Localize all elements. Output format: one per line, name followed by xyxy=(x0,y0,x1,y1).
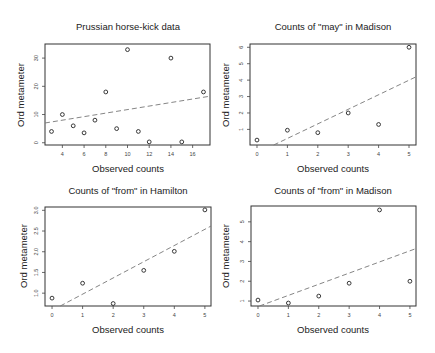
x-tick-label: 0 xyxy=(255,151,258,157)
x-tick-label: 3 xyxy=(142,312,145,318)
y-axis-label: Ord metameter xyxy=(220,63,231,127)
x-tick-label: 5 xyxy=(203,312,206,318)
data-point xyxy=(202,90,206,94)
x-tick-label: 4 xyxy=(377,151,380,157)
y-tick-label: 3 xyxy=(239,260,245,263)
data-point xyxy=(136,130,140,134)
data-point xyxy=(82,131,86,135)
data-point xyxy=(285,128,289,132)
fit-line xyxy=(260,249,416,306)
x-tick-label: 3 xyxy=(348,312,351,318)
x-tick-label: 5 xyxy=(407,151,410,157)
panel-from-hamilton: Counts of "from" in Hamilton Observed co… xyxy=(18,185,211,335)
panel-may-madison: Counts of "may" in Madison Observed coun… xyxy=(220,21,416,174)
x-tick-label: 8 xyxy=(104,151,107,157)
x-tick-label: 16 xyxy=(190,151,196,157)
y-axis-label: Ord metameter xyxy=(18,224,29,288)
data-point xyxy=(255,138,259,142)
data-point xyxy=(71,124,75,128)
data-point xyxy=(347,281,351,285)
data-point xyxy=(111,302,115,306)
x-tick-label: 12 xyxy=(146,151,152,157)
y-tick-label: 0 xyxy=(33,141,39,144)
panel-from-madison: Counts of "from" in Madison Observed cou… xyxy=(220,185,416,335)
x-axis-label: Observed counts xyxy=(92,324,164,335)
data-point xyxy=(147,140,151,144)
y-tick-label: 4 xyxy=(239,240,245,243)
y-tick-label: 2 xyxy=(239,280,245,283)
plot-frame xyxy=(45,44,210,145)
x-axis-label: Observed counts xyxy=(92,163,164,174)
data-point xyxy=(172,249,176,253)
x-tick-label: 10 xyxy=(124,151,130,157)
x-tick-label: 2 xyxy=(316,151,319,157)
data-point xyxy=(286,301,290,305)
y-tick-label: 3.0 xyxy=(33,206,39,214)
chart-title: Counts of "from" in Madison xyxy=(274,185,392,196)
y-tick-label: 1.0 xyxy=(33,289,39,297)
x-tick-label: 4 xyxy=(378,312,381,318)
y-tick-label: 5 xyxy=(239,220,245,223)
data-point xyxy=(169,56,173,60)
y-tick-label: 1.5 xyxy=(33,269,39,277)
y-axis-label: Ord metameter xyxy=(220,224,231,288)
data-point xyxy=(115,127,119,131)
data-point xyxy=(50,296,54,300)
chart-title: Counts of "may" in Madison xyxy=(275,21,392,32)
y-tick-label: 30 xyxy=(33,55,39,61)
data-point xyxy=(377,123,381,127)
y-tick-label: 3 xyxy=(238,95,244,98)
y-tick-label: 1 xyxy=(238,128,244,131)
y-axis-label: Ord metameter xyxy=(15,63,26,127)
data-point xyxy=(316,131,320,135)
x-tick-label: 5 xyxy=(408,312,411,318)
data-point xyxy=(407,45,411,49)
y-tick-label: 1 xyxy=(239,300,245,303)
y-tick-label: 10 xyxy=(33,111,39,117)
chart-title: Counts of "from" in Hamilton xyxy=(68,185,187,196)
panel-horse-kick: Prussian horse-kick data Observed counts… xyxy=(15,21,210,174)
data-point xyxy=(50,130,54,134)
data-point xyxy=(378,208,382,212)
x-tick-label: 4 xyxy=(173,312,176,318)
x-tick-label: 1 xyxy=(287,312,290,318)
plot-frame xyxy=(45,207,211,306)
data-point xyxy=(256,298,260,302)
data-point xyxy=(60,113,64,117)
fit-line xyxy=(274,77,416,145)
y-tick-label: 4 xyxy=(238,79,244,82)
data-point xyxy=(180,140,184,144)
y-tick-label: 2 xyxy=(238,111,244,114)
x-tick-label: 1 xyxy=(81,312,84,318)
x-tick-label: 4 xyxy=(61,151,64,157)
x-axis-label: Observed counts xyxy=(297,324,369,335)
data-point xyxy=(317,294,321,298)
data-point xyxy=(408,279,412,283)
x-tick-label: 0 xyxy=(256,312,259,318)
plot-frame xyxy=(251,206,416,306)
plot-frame xyxy=(250,44,416,145)
x-tick-label: 2 xyxy=(317,312,320,318)
chart-grid: Prussian horse-kick data Observed counts… xyxy=(0,0,435,353)
fit-line xyxy=(60,226,211,306)
y-tick-label: 2.5 xyxy=(33,227,39,235)
x-tick-label: 14 xyxy=(168,151,174,157)
data-point xyxy=(93,118,97,122)
y-tick-label: 2.0 xyxy=(33,248,39,256)
y-tick-label: 20 xyxy=(33,83,39,89)
data-point xyxy=(346,111,350,115)
x-tick-label: 2 xyxy=(112,312,115,318)
x-tick-label: 0 xyxy=(51,312,54,318)
x-axis-label: Observed counts xyxy=(297,163,369,174)
data-point xyxy=(104,90,108,94)
data-point xyxy=(126,48,130,52)
y-tick-label: 5 xyxy=(238,62,244,65)
x-tick-label: 6 xyxy=(83,151,86,157)
y-tick-label: 6 xyxy=(238,46,244,49)
data-point xyxy=(203,208,207,212)
chart-title: Prussian horse-kick data xyxy=(76,21,181,32)
x-tick-label: 3 xyxy=(347,151,350,157)
data-point xyxy=(142,268,146,272)
x-tick-label: 1 xyxy=(286,151,289,157)
fit-line xyxy=(45,96,210,123)
